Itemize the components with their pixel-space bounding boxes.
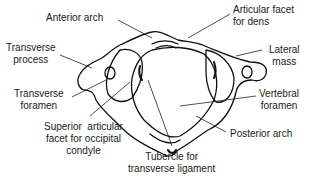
label-transverse-process: Transverse process [6, 42, 56, 66]
label-articular-facet-for-dens: Articular facet for dens [233, 4, 294, 28]
label-transverse-foramen: Transverse foramen [14, 88, 64, 112]
label-vertebral-foramen: Vertebral foramen [259, 88, 299, 112]
label-posterior-arch: Posterior arch [230, 128, 292, 140]
label-anterior-arch: Anterior arch [46, 12, 103, 24]
label-superior-articular-facet: Superior articular facet for occipital c… [44, 121, 123, 157]
label-tubercle-for-transverse-ligament: Tubercle for transverse ligament [128, 151, 215, 175]
label-lateral-mass: Lateral mass [269, 44, 300, 68]
